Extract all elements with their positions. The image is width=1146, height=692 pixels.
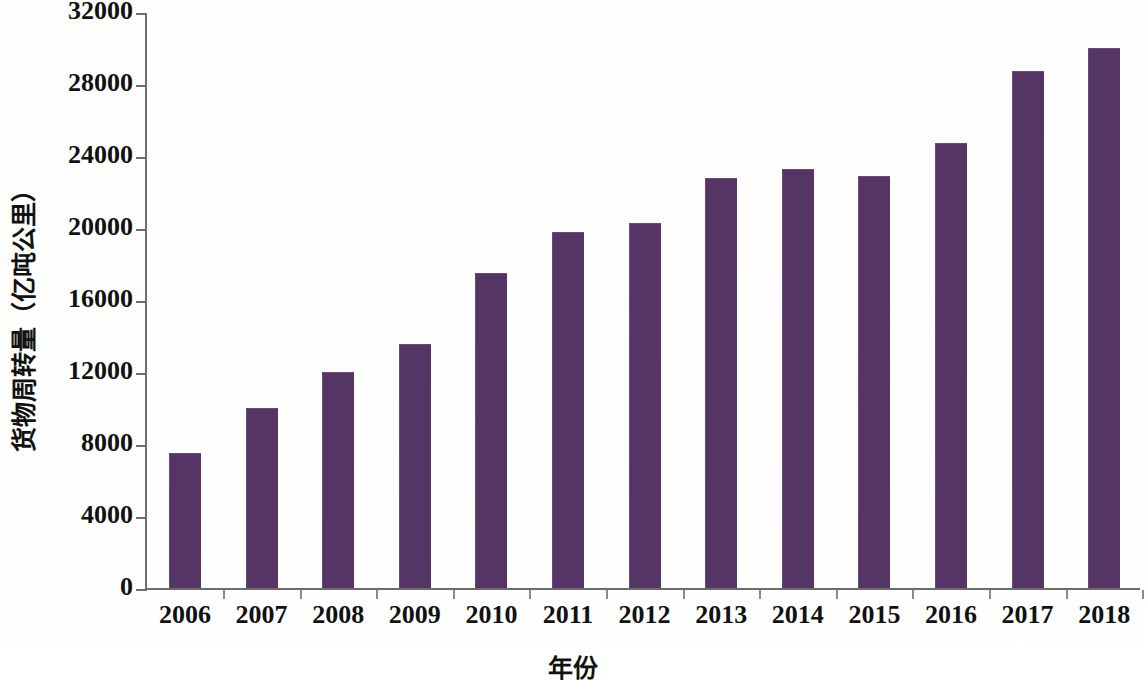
bar-2010 [475, 273, 507, 588]
y-axis-tick-label: 4000 [0, 500, 133, 530]
bar-2007 [246, 408, 278, 588]
x-axis-label-2018: 2018 [1049, 600, 1146, 630]
x-axis-tick [683, 590, 685, 599]
x-axis-tick [989, 590, 991, 599]
x-axis-tick [376, 590, 378, 599]
y-axis-tick [136, 301, 147, 303]
x-axis-tick [529, 590, 531, 599]
bar-2017 [1012, 71, 1044, 589]
plot-area [145, 14, 1140, 590]
y-axis-tick [136, 517, 147, 519]
bar-2011 [552, 232, 584, 588]
bar-2013 [705, 178, 737, 588]
y-axis-tick [136, 589, 147, 591]
y-axis-tick-label: 16000 [0, 284, 133, 314]
y-axis-tick-label: 28000 [0, 68, 133, 98]
bar-2015 [858, 176, 890, 588]
x-axis-tick [912, 590, 914, 599]
x-axis-tick [606, 590, 608, 599]
y-axis-tick-label: 8000 [0, 428, 133, 458]
bar-2009 [399, 344, 431, 588]
x-axis-tick [1066, 590, 1068, 599]
bar-chart: 货物周转量（亿吨公里） 0400080001200016000200002400… [0, 0, 1146, 692]
x-axis-tick [759, 590, 761, 599]
bar-2006 [169, 453, 201, 588]
y-axis-tick [136, 13, 147, 15]
bar-2008 [322, 372, 354, 588]
y-axis-tick [136, 373, 147, 375]
y-axis-tick [136, 445, 147, 447]
bar-2012 [629, 223, 661, 588]
x-axis-tick [223, 590, 225, 599]
x-axis-tick [836, 590, 838, 599]
y-axis-tick-label: 20000 [0, 212, 133, 242]
bar-2018 [1088, 48, 1120, 588]
x-axis-tick [453, 590, 455, 599]
x-axis-title: 年份 [0, 648, 1146, 684]
y-axis-tick [136, 229, 147, 231]
y-axis-tick-label: 24000 [0, 140, 133, 170]
y-axis-tick [136, 157, 147, 159]
y-axis-tick-label: 32000 [0, 0, 133, 26]
bar-2014 [782, 169, 814, 588]
bar-2016 [935, 143, 967, 588]
y-axis-tick-label: 0 [0, 572, 133, 602]
y-axis-tick-label: 12000 [0, 356, 133, 386]
x-axis-tick [1142, 590, 1144, 599]
y-axis-tick [136, 85, 147, 87]
x-axis-tick [300, 590, 302, 599]
